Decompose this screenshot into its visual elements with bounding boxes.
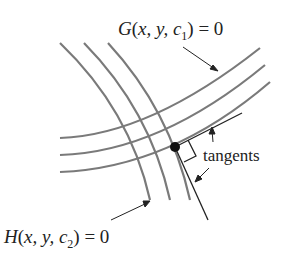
diagram: G(x, y, c1) = 0 H(x, y, c2) = 0 tangents <box>0 0 293 259</box>
h-curve-label: H(x, y, c2) = 0 <box>4 226 109 252</box>
right-angle-mark <box>184 140 196 162</box>
g-curve-label: G(x, y, c1) = 0 <box>118 18 223 44</box>
tangent-lines <box>175 113 242 220</box>
h-curve-family <box>60 43 190 200</box>
intersection-point <box>170 142 180 152</box>
tangents-label: tangents <box>203 146 260 166</box>
tangent-g <box>175 113 242 147</box>
